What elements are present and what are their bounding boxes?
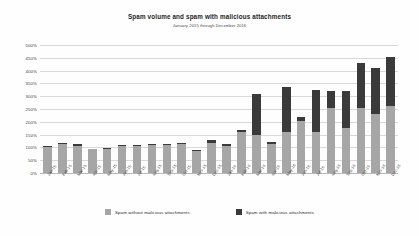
bar-column[interactable] <box>264 45 279 173</box>
x-axis-label-slot: Jun-15 <box>115 174 130 200</box>
y-axis-tick-label: 350% <box>26 81 37 86</box>
bar-column[interactable] <box>294 45 309 173</box>
x-axis-label-slot: May-16 <box>279 174 294 200</box>
bar-stack[interactable] <box>282 87 291 173</box>
x-axis-label-slot: Jun-16 <box>294 174 309 200</box>
bar-segment-with-attachments[interactable] <box>342 91 351 128</box>
x-axis-labels: Jan-15Feb-15Mar-15Apr-15May-15Jun-15Jul-… <box>40 174 398 200</box>
bar-segment-with-attachments[interactable] <box>252 94 261 135</box>
bar-column[interactable] <box>338 45 353 173</box>
x-axis-label-slot: Mar-16 <box>249 174 264 200</box>
bar-column[interactable] <box>100 45 115 173</box>
bar-segment-without-attachments[interactable] <box>297 121 306 173</box>
chart-subtitle: January 2015 through December 2016 <box>0 22 419 30</box>
y-axis-tick-label: 300% <box>26 94 37 99</box>
y-axis-tick-label: 400% <box>26 68 37 73</box>
x-axis-label-slot: Apr-15 <box>85 174 100 200</box>
x-axis-label-slot: Dec-16 <box>383 174 398 200</box>
x-axis-label-slot: Dec-15 <box>204 174 219 200</box>
chart-container: Spam volume and spam with malicious atta… <box>0 0 419 236</box>
bar-column[interactable] <box>159 45 174 173</box>
chart-legend: Spam without malicious attachmentsSpam w… <box>0 209 419 215</box>
y-axis-tick-label: 0% <box>31 171 37 176</box>
bar-column[interactable] <box>309 45 324 173</box>
bar-segment-with-attachments[interactable] <box>312 90 321 132</box>
bar-segment-with-attachments[interactable] <box>371 68 380 114</box>
legend-item[interactable]: Spam without malicious attachments <box>105 209 190 215</box>
y-axis-tick-label: 250% <box>26 107 37 112</box>
bar-column[interactable] <box>144 45 159 173</box>
y-axis-tick-label: 450% <box>26 55 37 60</box>
x-axis-label-slot: Jul-15 <box>130 174 145 200</box>
x-axis-label-slot: Jul-16 <box>309 174 324 200</box>
legend-swatch <box>236 209 242 215</box>
bar-column[interactable] <box>249 45 264 173</box>
bar-stack[interactable] <box>297 117 306 173</box>
x-axis-label-slot: Jan-16 <box>219 174 234 200</box>
bar-column[interactable] <box>353 45 368 173</box>
y-axis-tick-label: 500% <box>26 43 37 48</box>
bar-column[interactable] <box>324 45 339 173</box>
bar-column[interactable] <box>55 45 70 173</box>
x-axis-label-slot: Jan-15 <box>40 174 55 200</box>
x-axis-label-slot: Feb-16 <box>234 174 249 200</box>
bar-segment-without-attachments[interactable] <box>327 108 336 173</box>
bar-column[interactable] <box>115 45 130 173</box>
x-axis-label-slot: May-15 <box>100 174 115 200</box>
x-axis-label-slot: Feb-15 <box>55 174 70 200</box>
x-axis-label-slot: Oct-15 <box>174 174 189 200</box>
legend-item[interactable]: Spam with malicious attachments <box>236 209 314 215</box>
chart-header: Spam volume and spam with malicious atta… <box>0 12 419 30</box>
bar-column[interactable] <box>368 45 383 173</box>
x-axis-label-slot: Aug-15 <box>144 174 159 200</box>
bar-column[interactable] <box>130 45 145 173</box>
bar-segment-without-attachments[interactable] <box>371 114 380 173</box>
bar-column[interactable] <box>234 45 249 173</box>
x-axis-label-slot: Sep-15 <box>159 174 174 200</box>
x-axis-label-slot: Oct-16 <box>353 174 368 200</box>
x-axis-label-slot: Apr-16 <box>264 174 279 200</box>
x-axis-label-slot: Aug-16 <box>324 174 339 200</box>
plot-area: 500%450%400%350%300%250%200%150%100%50%0… <box>40 45 398 173</box>
y-axis-tick-label: 200% <box>26 119 37 124</box>
bar-segment-without-attachments[interactable] <box>386 106 395 173</box>
bar-segment-with-attachments[interactable] <box>386 57 395 106</box>
bar-column[interactable] <box>383 45 398 173</box>
x-axis-label-slot: Mar-15 <box>70 174 85 200</box>
bar-segment-with-attachments[interactable] <box>357 63 366 108</box>
bar-stack[interactable] <box>357 63 366 173</box>
legend-label: Spam with malicious attachments <box>246 210 314 215</box>
bar-stack[interactable] <box>386 57 395 173</box>
bar-column[interactable] <box>70 45 85 173</box>
bar-stack[interactable] <box>312 90 321 173</box>
x-axis-label-slot: Nov-15 <box>189 174 204 200</box>
x-axis-label-slot: Nov-16 <box>368 174 383 200</box>
bar-column[interactable] <box>40 45 55 173</box>
bar-stack[interactable] <box>252 94 261 173</box>
y-axis-tick-label: 100% <box>26 145 37 150</box>
bar-segment-with-attachments[interactable] <box>327 91 336 108</box>
bar-column[interactable] <box>85 45 100 173</box>
bar-stack[interactable] <box>371 68 380 173</box>
bar-series <box>40 45 398 173</box>
bar-column[interactable] <box>174 45 189 173</box>
bar-column[interactable] <box>204 45 219 173</box>
bar-column[interactable] <box>279 45 294 173</box>
chart-title: Spam volume and spam with malicious atta… <box>0 12 419 21</box>
y-axis-tick-label: 50% <box>28 158 37 163</box>
bar-stack[interactable] <box>327 91 336 173</box>
bar-segment-with-attachments[interactable] <box>282 87 291 132</box>
bar-stack[interactable] <box>342 91 351 173</box>
bar-column[interactable] <box>189 45 204 173</box>
bar-segment-without-attachments[interactable] <box>357 108 366 173</box>
legend-label: Spam without malicious attachments <box>115 210 190 215</box>
bar-column[interactable] <box>219 45 234 173</box>
y-axis-tick-label: 150% <box>26 132 37 137</box>
legend-swatch <box>105 209 111 215</box>
x-axis-label-slot: Sep-16 <box>338 174 353 200</box>
